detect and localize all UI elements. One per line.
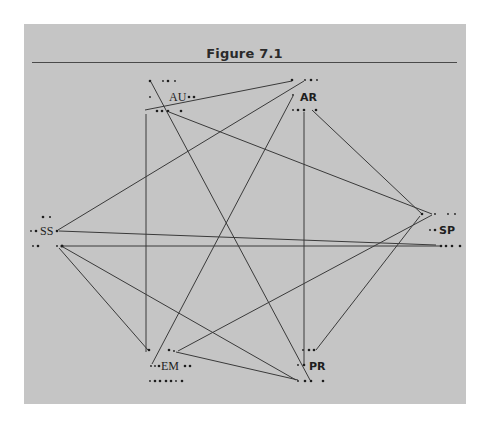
edge-ss-em (59, 248, 148, 350)
network-diagram: AU AR SS SP EM PR (0, 0, 489, 429)
edge-ar-sp (312, 110, 422, 214)
node-label-au: AU (169, 90, 187, 104)
edge-ar-em (152, 96, 293, 364)
edge-au-ar (145, 81, 292, 110)
node-ar: AR (291, 79, 318, 112)
edge-au-pr (151, 82, 310, 380)
node-label-sp: SP (439, 224, 455, 237)
node-label-em: EM (161, 359, 179, 373)
node-pr: PR (297, 349, 326, 383)
node-label-pr: PR (309, 360, 326, 373)
edge-au-sp (169, 112, 432, 214)
edge-pr-sp (316, 216, 420, 350)
edge-ss-pr (63, 247, 296, 380)
node-ss: SS (30, 216, 64, 248)
edge-em-sp (178, 215, 432, 351)
edges (58, 81, 440, 380)
node-label-ss: SS (40, 224, 53, 238)
edge-em-pr (176, 352, 298, 380)
node-label-ar: AR (300, 91, 318, 104)
